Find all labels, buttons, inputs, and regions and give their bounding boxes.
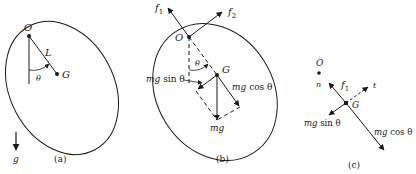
parallelogram-dash-1 bbox=[196, 91, 217, 120]
pivot-point bbox=[187, 35, 191, 39]
rigid-body-outline bbox=[0, 2, 141, 174]
panel-b: O G θ f1 f2 mg sin θ mg cos θ mg (b) bbox=[128, 0, 303, 174]
center-label: G bbox=[352, 100, 359, 110]
center-of-mass-point bbox=[215, 73, 219, 77]
caption-c: (c) bbox=[348, 160, 360, 170]
force-f1-label: f1 bbox=[154, 2, 163, 16]
cos-component-label: mg cos θ bbox=[232, 82, 273, 92]
pivot-label: O bbox=[24, 22, 32, 33]
sin-component-arrow bbox=[329, 103, 346, 115]
sin-label-leader bbox=[184, 80, 202, 83]
caption-a: (a) bbox=[54, 154, 66, 164]
gravity-label: g bbox=[13, 154, 19, 164]
force-f1-label: f1 bbox=[340, 79, 349, 93]
pivot-label: O bbox=[316, 58, 324, 68]
angle-arc bbox=[29, 64, 49, 70]
center-label: G bbox=[62, 69, 70, 80]
angle-label: θ bbox=[195, 59, 200, 68]
pivot-to-center-dashed-line bbox=[189, 37, 217, 75]
weight-label: mg bbox=[210, 123, 225, 133]
panel-a: O G L θ g (a) bbox=[0, 2, 141, 174]
center-of-mass-point bbox=[344, 101, 348, 105]
pivot-label: O bbox=[175, 32, 183, 43]
caption-b: (b) bbox=[216, 154, 229, 164]
cos-component-label: mg cos θ bbox=[374, 127, 412, 137]
length-label: L bbox=[44, 47, 52, 58]
force-f2-label: f2 bbox=[227, 6, 236, 20]
tangent-axis-label: t bbox=[373, 81, 377, 90]
pivot-point bbox=[27, 34, 31, 38]
sin-component-arrow bbox=[198, 75, 217, 89]
sin-component-label: mg sin θ bbox=[146, 74, 185, 84]
center-label: G bbox=[222, 64, 230, 75]
center-of-mass-point bbox=[55, 72, 59, 76]
rigid-body-outline bbox=[128, 0, 303, 174]
pivot-point bbox=[317, 71, 321, 75]
normal-axis-label: n bbox=[316, 80, 321, 89]
angle-label: θ bbox=[36, 74, 41, 83]
sin-component-label: mg sin θ bbox=[304, 118, 341, 128]
physical-pendulum-diagram: O G L θ g (a) O G θ f1 f2 mg sin θ mg co… bbox=[0, 0, 416, 174]
panel-c: O n t f1 G mg sin θ mg cos θ (c) bbox=[304, 58, 412, 170]
parallelogram-dash-2 bbox=[217, 107, 240, 120]
